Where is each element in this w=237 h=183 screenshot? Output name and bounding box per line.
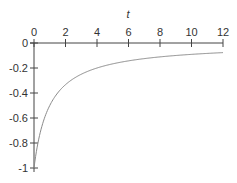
x-tick-label: 10 — [185, 26, 197, 38]
y-tick-label: -0.2 — [9, 62, 28, 74]
y-tick-label: -1 — [18, 162, 28, 174]
x-tick-label: 4 — [94, 26, 100, 38]
x-axis: 024681012 — [30, 26, 229, 47]
y-tick-label: -0.4 — [9, 87, 28, 99]
data-line — [34, 53, 223, 168]
y-tick-label: 0 — [22, 37, 28, 49]
x-tick-label: 6 — [125, 26, 131, 38]
y-tick-label: -0.8 — [9, 137, 28, 149]
y-axis: 0-0.2-0.4-0.6-0.8-1 — [9, 37, 38, 174]
x-tick-label: 0 — [31, 26, 37, 38]
y-tick-label: -0.6 — [9, 112, 28, 124]
x-tick-label: 2 — [62, 26, 68, 38]
x-tick-label: 8 — [157, 26, 163, 38]
chart-svg: t 024681012 0-0.2-0.4-0.6-0.8-1 — [0, 0, 237, 183]
x-axis-label: t — [126, 8, 130, 20]
x-tick-label: 12 — [217, 26, 229, 38]
chart: t 024681012 0-0.2-0.4-0.6-0.8-1 — [0, 0, 237, 183]
